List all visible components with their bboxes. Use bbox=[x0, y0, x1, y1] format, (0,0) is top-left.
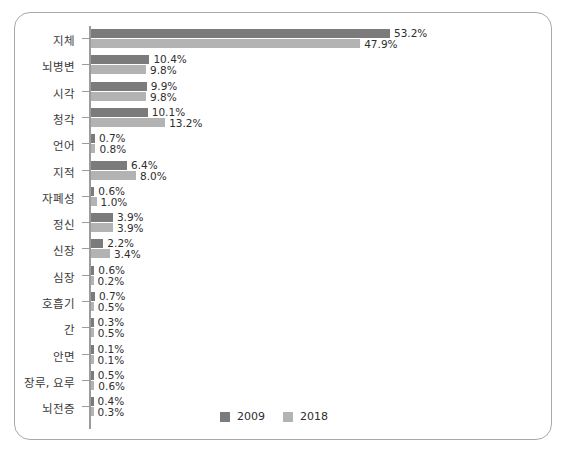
bar-2009-청각 bbox=[91, 108, 148, 117]
bar-value-label: 9.9% bbox=[151, 81, 178, 92]
bar-2009-정신 bbox=[91, 213, 113, 222]
bar-2009-신장 bbox=[91, 239, 103, 248]
bar-2009-뇌전증 bbox=[91, 397, 94, 406]
legend-item-2018: 2018 bbox=[283, 411, 328, 423]
bar-2018-심장 bbox=[91, 276, 94, 285]
bar-2018-신장 bbox=[91, 249, 110, 258]
bar-value-label: 3.9% bbox=[117, 223, 144, 234]
bar-row: 언어0.7%0.8% bbox=[15, 133, 553, 159]
bar-value-label: 0.2% bbox=[98, 276, 125, 287]
bar-2018-언어 bbox=[91, 144, 95, 153]
bar-value-label: 9.8% bbox=[150, 92, 177, 103]
bar-2018-지적 bbox=[91, 171, 136, 180]
category-label: 지적 bbox=[0, 164, 75, 182]
plot-area: 지체53.2%47.9%뇌병변10.4%9.8%시각9.9%9.8%청각10.1… bbox=[15, 13, 553, 441]
category-label: 정신 bbox=[0, 216, 75, 234]
bar-value-label: 8.0% bbox=[140, 171, 167, 182]
category-label: 청각 bbox=[0, 111, 75, 129]
category-label: 시각 bbox=[0, 85, 75, 103]
bar-2018-안면 bbox=[91, 355, 94, 364]
bar-row: 안면0.1%0.1% bbox=[15, 344, 553, 370]
category-label: 안면 bbox=[0, 348, 75, 366]
bar-value-label: 0.8% bbox=[99, 144, 126, 155]
bar-2018-지체 bbox=[91, 39, 360, 48]
bar-row: 지적6.4%8.0% bbox=[15, 160, 553, 186]
bar-2009-자폐성 bbox=[91, 187, 94, 196]
bar-value-label: 0.1% bbox=[98, 355, 125, 366]
bar-row: 간0.3%0.5% bbox=[15, 317, 553, 343]
bar-2018-자폐성 bbox=[91, 197, 97, 206]
bar-row: 뇌병변10.4%9.8% bbox=[15, 54, 553, 80]
legend-swatch-icon bbox=[283, 412, 293, 422]
bar-2018-청각 bbox=[91, 118, 165, 127]
bar-value-label: 53.2% bbox=[394, 28, 427, 39]
bar-2009-안면 bbox=[91, 345, 94, 354]
category-label: 자폐성 bbox=[0, 190, 75, 208]
legend-label: 2009 bbox=[237, 411, 265, 423]
bar-value-label: 1.0% bbox=[101, 197, 128, 208]
category-label: 장루, 요루 bbox=[0, 374, 75, 392]
bar-value-label: 3.4% bbox=[114, 249, 141, 260]
bar-2018-시각 bbox=[91, 92, 146, 101]
bar-2018-간 bbox=[91, 328, 94, 337]
bar-2009-지체 bbox=[91, 29, 390, 38]
bar-value-label: 0.3% bbox=[98, 407, 125, 418]
bar-row: 지체53.2%47.9% bbox=[15, 28, 553, 54]
bar-2009-뇌병변 bbox=[91, 55, 149, 64]
bar-value-label: 0.1% bbox=[98, 344, 125, 355]
bar-row: 신장2.2%3.4% bbox=[15, 238, 553, 264]
bar-2018-장루, 요루 bbox=[91, 381, 94, 390]
category-label: 신장 bbox=[0, 242, 75, 260]
category-label: 뇌전증 bbox=[0, 400, 75, 418]
chart-legend: 20092018 bbox=[220, 409, 328, 425]
category-label: 간 bbox=[0, 321, 75, 339]
bar-value-label: 13.2% bbox=[169, 118, 202, 129]
bar-2009-지적 bbox=[91, 161, 127, 170]
bar-value-label: 0.5% bbox=[98, 302, 125, 313]
category-label: 뇌병변 bbox=[0, 58, 75, 76]
bar-2009-간 bbox=[91, 318, 94, 327]
bar-row: 심장0.6%0.2% bbox=[15, 265, 553, 291]
bar-row: 호흡기0.7%0.5% bbox=[15, 291, 553, 317]
legend-item-2009: 2009 bbox=[220, 411, 265, 423]
bar-2018-정신 bbox=[91, 223, 113, 232]
category-label: 심장 bbox=[0, 269, 75, 287]
bar-value-label: 9.8% bbox=[150, 65, 177, 76]
category-label: 지체 bbox=[0, 32, 75, 50]
bar-2009-시각 bbox=[91, 82, 147, 91]
legend-swatch-icon bbox=[220, 412, 230, 422]
category-label: 호흡기 bbox=[0, 295, 75, 313]
bar-2009-장루, 요루 bbox=[91, 371, 94, 380]
bar-row: 시각9.9%9.8% bbox=[15, 81, 553, 107]
bar-row: 자폐성0.6%1.0% bbox=[15, 186, 553, 212]
bar-value-label: 0.5% bbox=[98, 328, 125, 339]
category-label: 언어 bbox=[0, 137, 75, 155]
bar-2009-언어 bbox=[91, 134, 95, 143]
bar-row: 정신3.9%3.9% bbox=[15, 212, 553, 238]
bar-2018-뇌병변 bbox=[91, 65, 146, 74]
bar-2009-호흡기 bbox=[91, 292, 95, 301]
bar-2018-뇌전증 bbox=[91, 407, 94, 416]
bar-row: 청각10.1%13.2% bbox=[15, 107, 553, 133]
bar-2009-심장 bbox=[91, 266, 94, 275]
bar-value-label: 47.9% bbox=[364, 39, 397, 50]
chart-frame: 지체53.2%47.9%뇌병변10.4%9.8%시각9.9%9.8%청각10.1… bbox=[14, 12, 552, 440]
bar-2018-호흡기 bbox=[91, 302, 94, 311]
bar-row: 장루, 요루0.5%0.6% bbox=[15, 370, 553, 396]
bar-value-label: 0.6% bbox=[98, 381, 125, 392]
bar-value-label: 6.4% bbox=[131, 160, 158, 171]
legend-label: 2018 bbox=[300, 411, 328, 423]
